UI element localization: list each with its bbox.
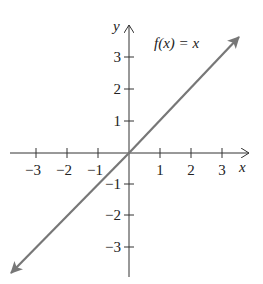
x-tick-labels: −3 −2 −1 1 2 3 — [25, 162, 226, 178]
x-tick-label: −1 — [87, 162, 103, 178]
y-tick-label: −1 — [105, 176, 121, 192]
function-graph: −3 −2 −1 1 2 3 3 2 1 −1 −2 −3 x y f(x) =… — [0, 0, 263, 284]
y-tick-label: −3 — [105, 239, 121, 255]
x-tick-label: 1 — [156, 162, 164, 178]
y-tick-labels: 3 2 1 −1 −2 −3 — [105, 49, 121, 255]
x-axis-label: x — [238, 159, 246, 175]
y-axis-label: y — [111, 18, 120, 34]
y-tick-label: −2 — [105, 207, 121, 223]
function-line — [129, 37, 239, 153]
x-tick-label: 3 — [218, 162, 226, 178]
x-tick-label: 2 — [187, 162, 195, 178]
y-tick-label: 3 — [114, 49, 122, 65]
x-tick-label: −3 — [25, 162, 41, 178]
y-tick-label: 2 — [114, 81, 122, 97]
y-tick-label: 1 — [114, 113, 122, 129]
x-tick-label: −2 — [56, 162, 72, 178]
function-label: f(x) = x — [154, 35, 199, 52]
